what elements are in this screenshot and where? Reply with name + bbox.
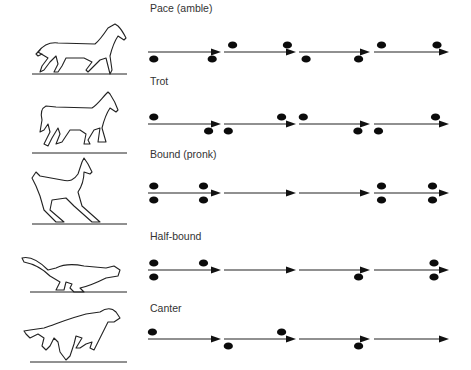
- footfall-above: [432, 41, 441, 48]
- footfall-below: [224, 127, 233, 134]
- footfall-above: [283, 41, 292, 48]
- arrow-head-icon: [360, 336, 370, 343]
- arrow-head-icon: [211, 121, 221, 128]
- gait-row-bound-pronk: Bound (pronk): [148, 148, 449, 204]
- arrow-head-icon: [439, 267, 449, 274]
- gait-row-trot: Trot: [148, 75, 449, 135]
- gait-label: Trot: [150, 75, 168, 87]
- arrow-head-icon: [211, 49, 221, 56]
- gait-row-pace-amble: Pace (amble): [148, 2, 449, 63]
- gait-row-canter: Canter: [148, 302, 449, 350]
- footfall-above: [149, 182, 158, 189]
- arrow-head-icon: [286, 267, 296, 274]
- gait-diagram: Pace (amble)TrotBound (pronk)Half-boundC…: [0, 0, 471, 370]
- footfall-below: [377, 196, 386, 203]
- footfall-below: [429, 273, 438, 280]
- arrow-head-icon: [211, 190, 221, 197]
- animal-deer-pronking: [32, 158, 127, 224]
- footfall-above: [299, 113, 308, 120]
- arrow-head-icon: [439, 336, 449, 343]
- footfall-below: [149, 273, 158, 280]
- arrow-head-icon: [211, 267, 221, 274]
- arrow-head-icon: [286, 190, 296, 197]
- footfall-above: [377, 41, 386, 48]
- footfall-above: [428, 182, 437, 189]
- gait-label: Canter: [150, 302, 182, 314]
- arrow-head-icon: [360, 49, 370, 56]
- footfall-above: [149, 113, 158, 120]
- footfall-below: [428, 196, 437, 203]
- footfall-above: [228, 41, 237, 48]
- footfall-below: [374, 127, 383, 134]
- footfall-above: [199, 259, 208, 266]
- footfall-below: [354, 55, 363, 62]
- gait-rows: Pace (amble)TrotBound (pronk)Half-boundC…: [148, 2, 449, 350]
- footfall-below: [224, 342, 233, 349]
- arrow-head-icon: [439, 190, 449, 197]
- arrow-head-icon: [439, 49, 449, 56]
- arrow-head-icon: [360, 267, 370, 274]
- footfall-below: [199, 196, 208, 203]
- footfall-above: [429, 259, 438, 266]
- arrow-head-icon: [286, 336, 296, 343]
- arrow-head-icon: [360, 121, 370, 128]
- gait-label: Half-bound: [150, 230, 202, 242]
- animal-dog-cantering: [24, 309, 127, 362]
- arrow-head-icon: [286, 121, 296, 128]
- footfall-above: [199, 182, 208, 189]
- footfall-above: [377, 182, 386, 189]
- arrow-head-icon: [286, 49, 296, 56]
- gait-label: Bound (pronk): [150, 148, 217, 160]
- arrow-head-icon: [360, 190, 370, 197]
- animal-ferret-half-bounding: [22, 258, 127, 292]
- arrow-head-icon: [439, 121, 449, 128]
- footfall-below: [302, 55, 311, 62]
- footfall-above: [431, 113, 440, 120]
- footfall-below: [208, 55, 217, 62]
- animal-horse-pacing: [32, 24, 127, 74]
- footfall-below: [149, 55, 158, 62]
- gait-row-half-bound: Half-bound: [148, 230, 449, 281]
- footfall-below: [354, 342, 363, 349]
- footfall-below: [204, 127, 213, 134]
- footfall-below: [353, 127, 362, 134]
- footfall-below: [354, 273, 363, 280]
- animal-horse-trotting: [32, 92, 127, 153]
- footfall-above: [148, 328, 157, 335]
- gait-label: Pace (amble): [150, 2, 212, 14]
- footfall-below: [149, 196, 158, 203]
- footfall-above: [277, 113, 286, 120]
- arrow-head-icon: [211, 336, 221, 343]
- footfall-above: [149, 259, 158, 266]
- footfall-above: [277, 328, 286, 335]
